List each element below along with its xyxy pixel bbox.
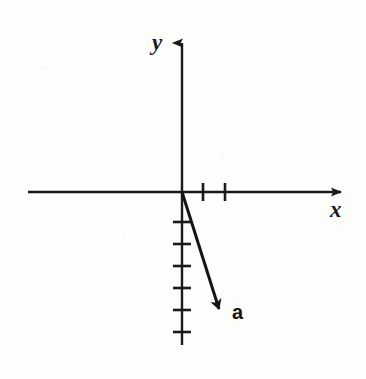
vector-a-group: [182, 192, 219, 309]
coordinate-plot-canvas: [0, 0, 366, 379]
x-axis-label: x: [330, 198, 342, 221]
vector-diagram-figure: y x a: [0, 0, 366, 379]
vector-a-arrow: [182, 192, 219, 309]
y-axis-label: y: [152, 31, 162, 54]
vector-a-label: a: [232, 302, 243, 322]
